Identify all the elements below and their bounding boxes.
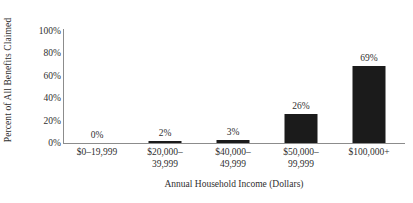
x-tick-label-5: $100,000+ [325, 147, 413, 159]
y-tick-label-20: 20% [21, 116, 61, 126]
bar-value-50000-99999: 26% [292, 101, 309, 111]
bar-100000-plus [353, 66, 386, 143]
y-tick-label-100: 100% [21, 26, 61, 36]
bar-50000-99999 [285, 114, 318, 143]
bar-value-0-19999: 0% [91, 130, 104, 140]
x-tick-label-5-line1: $100,000+ [325, 147, 413, 159]
bar-slot-3: 3% [199, 31, 267, 143]
bar-slot-2: 2% [131, 31, 199, 143]
x-tick-label-4-line2: 99,999 [257, 159, 345, 171]
bar-value-20000-39999: 2% [159, 128, 172, 138]
chart-figure: Percent of All Benefits Claimed 0% 20% 4… [0, 0, 413, 203]
plot-area: 0% 2% 3% 26% 69% [63, 31, 405, 143]
bar-20000-39999 [149, 141, 182, 143]
y-tick-label-80: 80% [21, 48, 61, 58]
x-axis-title: Annual Household Income (Dollars) [63, 179, 405, 189]
bar-value-100000-plus: 69% [360, 53, 377, 63]
bar-value-40000-49999: 3% [227, 127, 240, 137]
bar-slot-1: 0% [63, 31, 131, 143]
x-axis-line [63, 143, 405, 144]
y-tick-label-60: 60% [21, 71, 61, 81]
y-axis-title: Percent of All Benefits Claimed [0, 0, 16, 160]
bar-40000-49999 [217, 140, 250, 143]
y-tick-label-40: 40% [21, 93, 61, 103]
bar-slot-5: 69% [335, 31, 403, 143]
bar-slot-4: 26% [267, 31, 335, 143]
y-axis-title-text: Percent of All Benefits Claimed [3, 18, 13, 142]
